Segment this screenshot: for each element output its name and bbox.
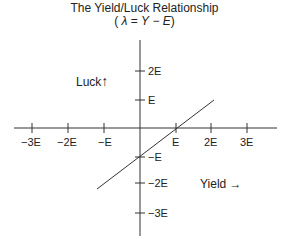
axes-plot <box>0 0 289 239</box>
relationship-line <box>97 100 214 189</box>
y-tick-label: −2E <box>148 177 168 189</box>
y-tick-label: E <box>148 94 155 106</box>
x-tick-label: −E <box>98 136 112 148</box>
x-tick-label: −2E <box>57 136 77 148</box>
y-tick-label: −3E <box>148 207 168 219</box>
x-axis-title: Yield → <box>200 178 242 190</box>
y-axis-title: Luck↑ <box>76 75 108 88</box>
x-tick-label: E <box>172 136 179 148</box>
right-arrow-icon: → <box>230 177 242 191</box>
y-tick-label: 2E <box>148 65 161 77</box>
x-tick-label: 3E <box>240 136 253 148</box>
y-tick-label: −E <box>148 151 162 163</box>
x-tick-label: 2E <box>204 136 217 148</box>
up-arrow-icon: ↑ <box>101 73 108 89</box>
x-tick-label: −3E <box>21 136 41 148</box>
